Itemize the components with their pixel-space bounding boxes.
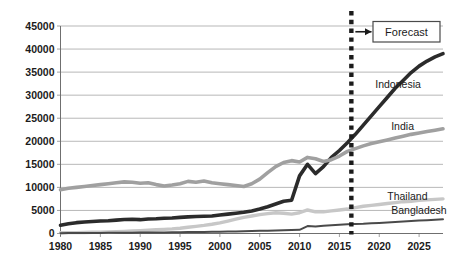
x-axis-tick-label: 2025 [407, 240, 431, 252]
x-axis-tick-label: 2005 [248, 240, 272, 252]
x-axis-tick-label: 1985 [89, 240, 113, 252]
x-axis-tick-label: 2010 [288, 240, 312, 252]
y-axis-tick-label: 5000 [31, 204, 55, 216]
y-axis-tick-label: 30000 [25, 89, 54, 101]
y-axis-tick-label: 10000 [25, 181, 54, 193]
y-axis-tick-label: 45000 [25, 20, 54, 32]
y-axis-tick-label: 20000 [25, 135, 54, 147]
y-axis-tick-label: 0 [49, 227, 55, 239]
x-axis-tick-label: 2020 [368, 240, 392, 252]
series-label-thailand: Thailand [387, 190, 427, 202]
series-label-bangladesh: Bangladesh [391, 204, 447, 216]
x-axis-tick-label: 1980 [49, 240, 73, 252]
x-axis-tick-label: 2015 [328, 240, 352, 252]
line-chart: Forecast 0500010000150002000025000300003… [0, 0, 452, 268]
forecast-arrow-head [365, 28, 372, 35]
x-axis-tick-label: 2000 [208, 240, 232, 252]
y-axis-tick-label: 15000 [25, 158, 54, 170]
x-axis-tick-label: 1990 [129, 240, 153, 252]
x-axis-tick-label: 1995 [168, 240, 192, 252]
series-label-india: India [391, 120, 414, 132]
series-label-indonesia: Indonesia [375, 78, 421, 90]
y-axis-tick-label: 25000 [25, 112, 54, 124]
forecast-label: Forecast [385, 26, 428, 38]
y-axis-labels: 0500010000150002000025000300003500040000… [25, 20, 54, 240]
chart-container: Forecast 0500010000150002000025000300003… [0, 0, 452, 268]
y-axis-tick-label: 35000 [25, 66, 54, 78]
x-axis-labels: 1980198519901995200020052010201520202025 [49, 240, 431, 252]
series-line-india [61, 129, 444, 190]
series-line-thailand [61, 199, 444, 233]
y-axis-tick-label: 40000 [25, 43, 54, 55]
